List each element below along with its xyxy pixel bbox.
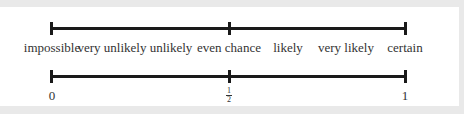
label-impossible: impossible — [24, 40, 80, 56]
tick-certain — [404, 22, 407, 35]
probability-scale-panel: impossible very unlikely unlikely even c… — [0, 7, 459, 106]
label-certain: certain — [387, 40, 422, 56]
label-unlikely: unlikely — [150, 40, 193, 56]
label-likely: likely — [273, 40, 303, 56]
label-zero: 0 — [49, 88, 56, 104]
tick-even-chance — [228, 22, 231, 35]
tick-impossible — [50, 22, 53, 35]
label-one-half: 1 2 — [226, 87, 232, 104]
label-very-unlikely: very unlikely — [78, 40, 147, 56]
tick-zero — [50, 70, 53, 83]
tick-one — [404, 70, 407, 83]
label-very-likely: very likely — [318, 40, 374, 56]
label-one: 1 — [402, 88, 409, 104]
tick-half — [228, 70, 231, 83]
half-numerator: 1 — [227, 86, 231, 95]
label-even-chance: even chance — [197, 40, 261, 56]
half-denominator: 2 — [227, 95, 231, 104]
